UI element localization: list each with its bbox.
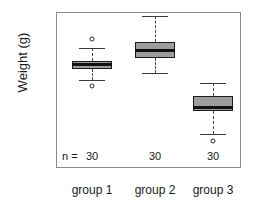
cap-upper <box>200 83 226 84</box>
whisker-upper <box>155 16 156 42</box>
cap-lower <box>79 80 105 81</box>
x-tick-label-3: group 3 <box>178 183 248 197</box>
box-3 <box>193 96 233 111</box>
sample-size-1: 30 <box>72 150 112 162</box>
outlier-point <box>211 139 216 144</box>
cap-upper <box>142 16 168 17</box>
cap-lower <box>200 134 226 135</box>
median-line <box>135 49 175 52</box>
sample-size-2: 30 <box>135 150 175 162</box>
whisker-lower <box>92 69 93 81</box>
outlier-point <box>90 83 95 88</box>
median-line <box>72 63 112 66</box>
boxplot-figure: Weight (g) 051015 group 1group 2group 3 … <box>0 0 255 211</box>
cap-lower <box>142 73 168 74</box>
sample-size-3: 30 <box>193 150 233 162</box>
cap-upper <box>79 48 105 49</box>
whisker-lower <box>155 58 156 73</box>
x-tick-label-1: group 1 <box>57 183 127 197</box>
outlier-point <box>90 36 95 41</box>
whisker-lower <box>213 111 214 133</box>
median-line <box>193 106 233 109</box>
whisker-upper <box>213 83 214 95</box>
boxplot-series <box>0 0 255 211</box>
whisker-upper <box>92 48 93 61</box>
